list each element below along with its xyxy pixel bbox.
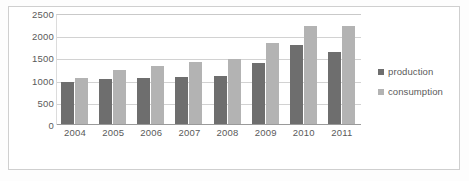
legend-label: production <box>388 66 433 77</box>
legend-entry-consumption: consumption <box>378 86 462 97</box>
x-tick-label: 2010 <box>293 127 315 138</box>
legend-swatch-icon <box>378 89 384 95</box>
x-tick-label: 2007 <box>178 127 200 138</box>
x-axis: 20042005200620072008200920102011 <box>56 127 361 145</box>
bar-group <box>210 15 248 125</box>
bar-chart-figure: 05001000150020002500 2004200520062007200… <box>0 0 469 181</box>
y-tick-label: 500 <box>38 97 54 108</box>
x-tick-label: 2009 <box>255 127 277 138</box>
bar-production-2010 <box>290 45 303 125</box>
bar-production-2009 <box>252 63 265 125</box>
plot-area <box>56 14 361 125</box>
y-axis: 05001000150020002500 <box>14 8 54 126</box>
bar-group <box>95 15 133 125</box>
bar-production-2006 <box>137 78 150 126</box>
bars-layer <box>57 15 361 125</box>
bar-production-2011 <box>328 52 341 125</box>
y-tick-label: 2500 <box>32 9 54 20</box>
x-tick-label: 2011 <box>331 127 352 138</box>
bar-consumption-2004 <box>75 78 88 125</box>
bar-production-2005 <box>99 79 112 125</box>
y-tick-label: 2000 <box>32 31 54 42</box>
y-tick-label: 0 <box>49 120 54 131</box>
bar-consumption-2007 <box>189 62 202 125</box>
bar-production-2007 <box>175 77 188 125</box>
legend-swatch-icon <box>378 69 384 75</box>
bar-group <box>133 15 171 125</box>
chart-legend: productionconsumption <box>378 66 462 106</box>
bar-group <box>324 15 362 125</box>
bar-consumption-2011 <box>342 26 355 125</box>
bar-production-2008 <box>214 76 227 125</box>
y-tick-label: 1500 <box>32 53 54 64</box>
bar-production-2004 <box>61 82 74 126</box>
bar-group <box>57 15 95 125</box>
bar-group <box>286 15 324 125</box>
bar-group <box>171 15 209 125</box>
bar-consumption-2008 <box>228 59 241 125</box>
x-tick-label: 2005 <box>102 127 124 138</box>
bar-group <box>248 15 286 125</box>
y-tick-label: 1000 <box>32 75 54 86</box>
bar-consumption-2005 <box>113 70 126 125</box>
x-tick-label: 2004 <box>64 127 86 138</box>
bar-consumption-2009 <box>266 43 279 125</box>
bar-consumption-2010 <box>304 26 317 125</box>
legend-label: consumption <box>388 86 443 97</box>
x-tick-label: 2006 <box>140 127 162 138</box>
legend-entry-production: production <box>378 66 462 77</box>
axis-baseline <box>57 124 361 125</box>
bar-consumption-2006 <box>151 66 164 125</box>
x-tick-label: 2008 <box>217 127 239 138</box>
